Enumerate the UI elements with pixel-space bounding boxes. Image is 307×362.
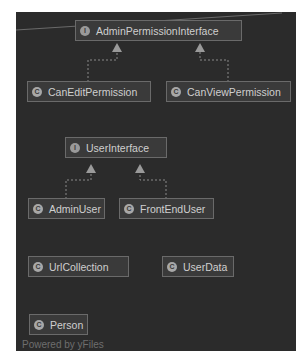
- node-label: UrlCollection: [49, 261, 109, 273]
- edge-canedit-to-adminpermission: [88, 50, 117, 82]
- node-user-interface[interactable]: I UserInterface: [65, 137, 167, 158]
- node-label: UserInterface: [86, 142, 149, 154]
- node-admin-permission-interface[interactable]: I AdminPermissionInterface: [75, 20, 242, 41]
- node-label: Person: [50, 319, 83, 331]
- node-user-data[interactable]: C UserData: [162, 256, 234, 277]
- class-icon: C: [33, 262, 43, 272]
- node-label: AdminPermissionInterface: [96, 25, 219, 37]
- node-label: FrontEndUser: [140, 203, 205, 215]
- node-can-edit-permission[interactable]: C CanEditPermission: [27, 81, 151, 102]
- class-icon: C: [33, 204, 43, 214]
- arrowhead-icon: [135, 164, 145, 173]
- class-icon: C: [171, 87, 181, 97]
- diagram-edges: [0, 0, 307, 362]
- class-icon: C: [124, 204, 134, 214]
- node-label: CanViewPermission: [187, 86, 281, 98]
- class-icon: C: [34, 320, 44, 330]
- node-person[interactable]: C Person: [29, 314, 88, 335]
- arrowhead-icon: [86, 164, 96, 173]
- node-admin-user[interactable]: C AdminUser: [28, 198, 105, 219]
- edge-frontenduser-to-userinterface: [140, 172, 166, 199]
- node-frontend-user[interactable]: C FrontEndUser: [119, 198, 214, 219]
- interface-icon: I: [70, 143, 80, 153]
- arrowhead-icon: [112, 43, 122, 52]
- edge-adminuser-to-userinterface: [66, 172, 91, 199]
- arrowhead-icon: [195, 43, 205, 52]
- watermark: Powered by yFiles: [22, 339, 104, 350]
- interface-icon: I: [80, 26, 90, 36]
- node-label: UserData: [183, 261, 227, 273]
- node-can-view-permission[interactable]: C CanViewPermission: [166, 81, 291, 102]
- class-icon: C: [32, 87, 42, 97]
- node-label: CanEditPermission: [48, 86, 137, 98]
- node-label: AdminUser: [49, 203, 101, 215]
- node-url-collection[interactable]: C UrlCollection: [28, 256, 129, 277]
- class-icon: C: [167, 262, 177, 272]
- edge-canview-to-adminpermission: [200, 50, 228, 82]
